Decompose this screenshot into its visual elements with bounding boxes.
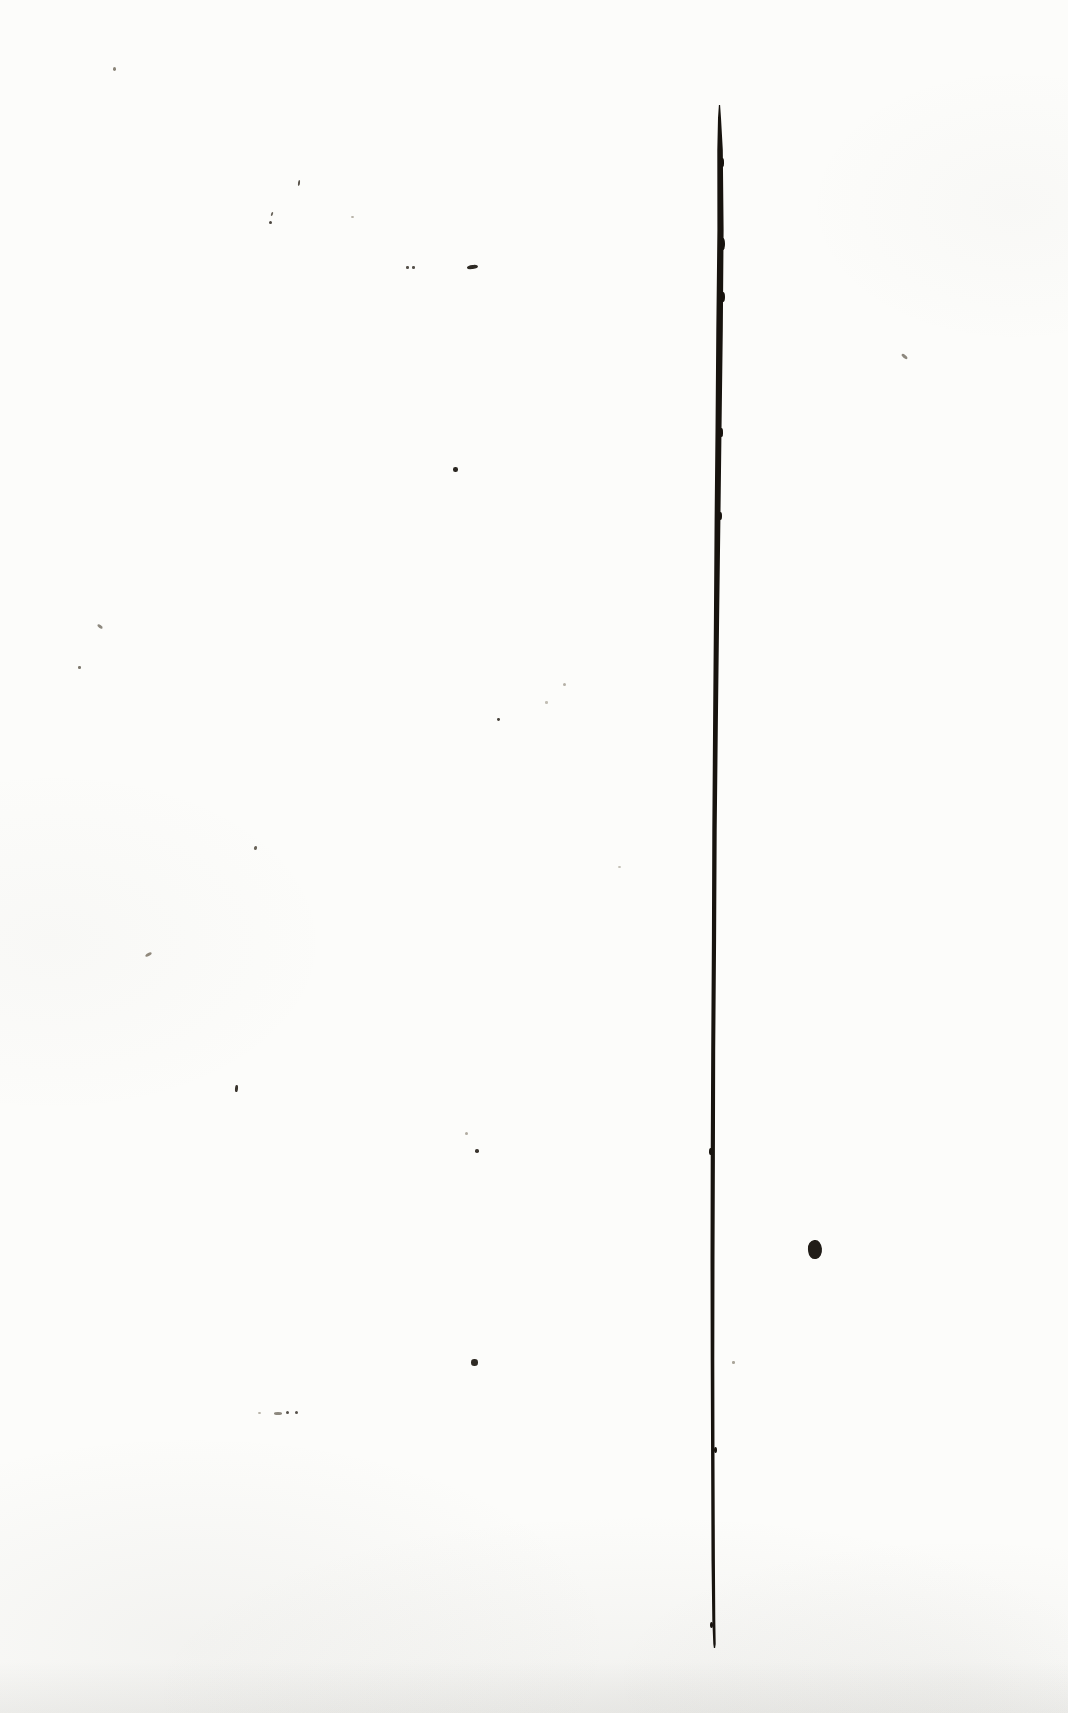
ink-speck (78, 666, 81, 669)
gutter-line-bump (713, 902, 716, 909)
ink-speck (497, 718, 500, 721)
ink-speck (465, 1132, 468, 1135)
ink-speck (563, 683, 566, 686)
gutter-line-bump (719, 512, 722, 520)
ink-speck (618, 866, 621, 868)
ink-speck (113, 67, 116, 71)
ink-speck (274, 1412, 282, 1415)
ink-speck (351, 216, 354, 218)
ink-speck (295, 1411, 298, 1414)
gutter-fold-line (0, 0, 1068, 1713)
gutter-line-path (711, 105, 724, 1648)
ink-speck (453, 467, 458, 472)
ink-speck (412, 266, 415, 269)
gutter-line-bump (721, 292, 725, 302)
gutter-line-bump (721, 238, 725, 250)
gutter-line-bump (715, 642, 718, 650)
ink-speck (269, 221, 272, 224)
ink-speck (286, 1411, 289, 1414)
gutter-line-bump (710, 1622, 713, 1628)
ink-speck (732, 1361, 735, 1364)
ink-speck (475, 1149, 479, 1153)
ink-speck (471, 1359, 478, 1366)
gutter-line-bump (709, 1148, 712, 1155)
scanned-page (0, 0, 1068, 1713)
ink-speck (545, 701, 548, 704)
gutter-line-bump (714, 1447, 717, 1453)
ink-speck (258, 1412, 261, 1414)
ink-speck (406, 266, 409, 269)
